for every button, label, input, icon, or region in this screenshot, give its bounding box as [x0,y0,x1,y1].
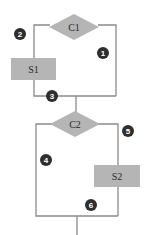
decision-c1-label: C1 [68,22,80,33]
path-marker-1-label: 1 [101,49,106,58]
top-if-structure: C1 S1 1 2 3 [11,14,116,112]
bottom-if-structure: C2 S2 4 5 6 [36,111,140,235]
c1-left-branch-line [34,25,50,58]
path-marker-4-label: 4 [44,156,49,165]
statement-s1-label: S1 [28,64,39,75]
path-marker-5-label: 5 [126,127,131,136]
flowchart-canvas: C1 S1 1 2 3 C2 S2 4 5 6 [0,0,156,235]
path-marker-3-label: 3 [50,92,55,101]
c1-right-branch-line [98,25,116,96]
s1-to-join-line [34,80,116,96]
c2-right-branch-line [98,124,118,165]
path-marker-2-label: 2 [18,30,23,39]
decision-c2-label: C2 [69,119,81,130]
path-marker-6-label: 6 [89,201,94,210]
statement-s2-label: S2 [112,171,123,182]
